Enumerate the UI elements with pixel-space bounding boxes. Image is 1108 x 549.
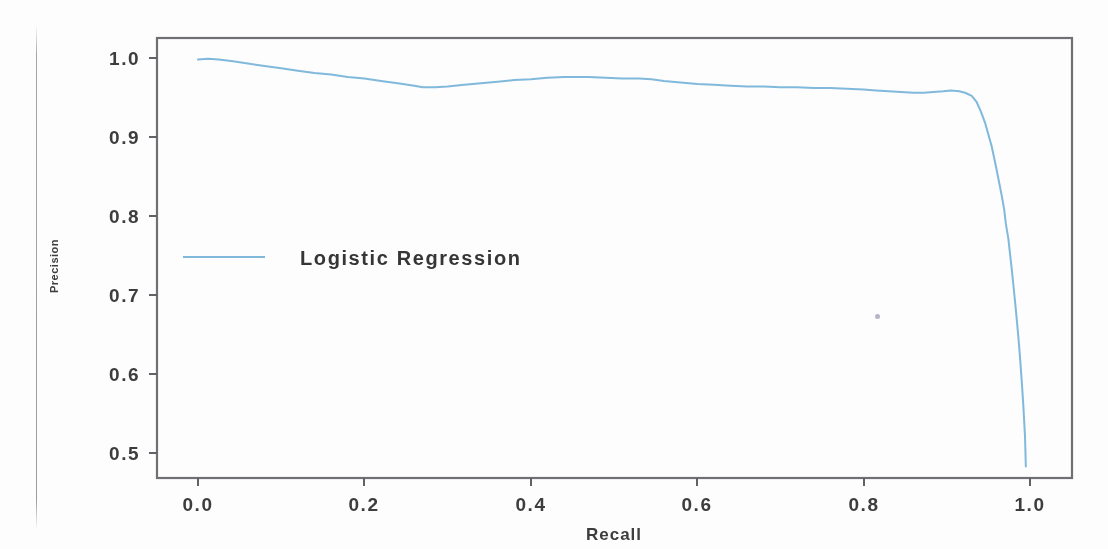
y-tick-marks: [149, 58, 157, 453]
y-tick-labels: 1.0 0.9 0.8 0.7 0.6 0.5: [109, 48, 140, 464]
y-tick-label: 0.5: [109, 443, 140, 464]
y-tick-label: 0.7: [109, 285, 140, 306]
plot-frame: [157, 38, 1072, 478]
x-tick-label: 1.0: [1015, 494, 1046, 515]
x-tick-marks: [198, 478, 1030, 486]
y-tick-label: 0.6: [109, 364, 140, 385]
y-tick-label: 1.0: [109, 48, 140, 69]
legend: Logistic Regression: [183, 247, 522, 269]
x-tick-label: 0.6: [682, 494, 713, 515]
precision-recall-chart: 1.0 0.9 0.8 0.7 0.6 0.5 0.0 0.2 0.4 0.6 …: [0, 0, 1108, 549]
y-tick-label: 0.8: [109, 206, 140, 227]
scanned-page: 1.0 0.9 0.8 0.7 0.6 0.5 0.0 0.2 0.4 0.6 …: [0, 0, 1108, 549]
x-tick-label: 0.4: [516, 494, 547, 515]
legend-label: Logistic Regression: [300, 247, 522, 269]
y-axis-title: Precision: [48, 239, 60, 293]
x-axis-title: Recall: [586, 525, 642, 544]
y-tick-label: 0.9: [109, 127, 140, 148]
x-tick-label: 0.2: [349, 494, 380, 515]
x-tick-label: 0.8: [849, 494, 880, 515]
x-tick-label: 0.0: [183, 494, 214, 515]
x-tick-labels: 0.0 0.2 0.4 0.6 0.8 1.0: [183, 494, 1046, 515]
